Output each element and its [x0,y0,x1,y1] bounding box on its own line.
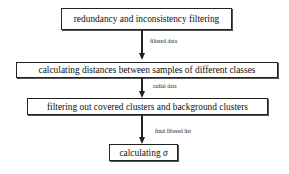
sigma-symbol: σ [163,148,168,158]
node-filtering-clusters: filtering out covered clusters and backg… [27,98,268,115]
node-redundancy-filtering: redundancy and inconsistency filtering [61,8,232,30]
node-label: filtering out covered clusters and backg… [47,102,248,112]
node-label: redundancy and inconsistency filtering [74,14,220,24]
node-label: calculating σ [119,148,167,158]
node-label: calculating distances between samples of… [39,65,256,75]
arrowhead-icon [139,91,145,98]
arrowhead-icon [139,53,145,60]
arrowhead-icon [139,137,145,144]
node-calculating-sigma: calculating σ [109,144,178,161]
node-calculating-distances: calculating distances between samples of… [16,62,278,78]
edge-label-radial-data: radial data [153,83,176,89]
edge-label-final-filtered-list: final filtered list [155,128,191,134]
edge-label-filtered-data: filtered data [150,38,177,44]
node-label-text: calculating [119,148,162,158]
